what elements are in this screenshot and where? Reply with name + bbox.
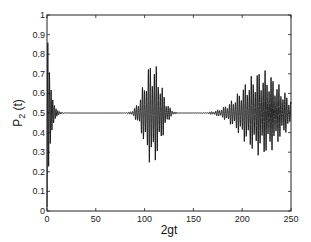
y-tick-label: 0.3 (32, 147, 45, 157)
x-tick-label: 200 (235, 214, 250, 224)
y-tick-label: 0.8 (32, 49, 45, 59)
y-axis-label: P2 (t) (11, 99, 27, 127)
y-tick-label: 0.6 (32, 88, 45, 98)
x-tick-label: 100 (137, 214, 152, 224)
x-tick-label: 0 (44, 214, 49, 224)
chart: 05010015020025000.10.20.30.40.50.60.70.8… (0, 0, 311, 242)
y-tick-label: 0.1 (32, 186, 45, 196)
x-tick-label: 150 (186, 214, 201, 224)
y-tick-label: 0.2 (32, 167, 45, 177)
x-tick-label: 250 (283, 214, 298, 224)
y-tick-label: 0.5 (32, 108, 45, 118)
x-axis-label: 2gt (161, 223, 178, 237)
x-tick-label: 50 (91, 214, 101, 224)
y-tick-label: 1 (40, 10, 45, 20)
y-tick-label: 0.9 (32, 30, 45, 40)
y-tick-label: 0.7 (32, 69, 45, 79)
y-tick-label: 0.4 (32, 128, 45, 138)
y-tick-label: 0 (40, 206, 45, 216)
